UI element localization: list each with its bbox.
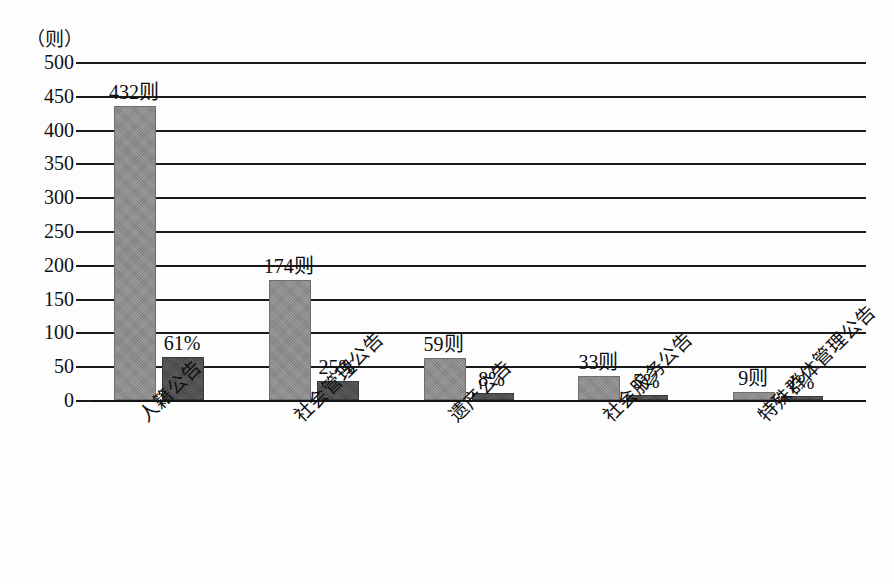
y-axis-tick-label: 100: [44, 322, 74, 342]
y-axis-tick-label: 150: [44, 289, 74, 309]
y-axis-tick-mark: [76, 400, 92, 402]
y-axis-tick-mark: [76, 163, 92, 165]
y-axis-tick-label: 500: [44, 52, 74, 72]
bar-percent-label: 61%: [164, 333, 201, 353]
bar-chart: （则） 500450400350300250200150100500 432则6…: [0, 0, 894, 584]
gridline: [92, 265, 866, 267]
bar-count-label: 174则: [264, 256, 314, 276]
y-axis-tick-label: 0: [64, 390, 74, 410]
y-axis-tick-mark: [76, 366, 92, 368]
y-axis-unit-caption: （则）: [26, 24, 83, 51]
y-axis-tick-mark: [76, 299, 92, 301]
y-axis-tick-label: 50: [54, 356, 74, 376]
bar-count-label: 33则: [578, 352, 618, 372]
gridline: [92, 299, 866, 301]
y-axis-tick-mark: [76, 96, 92, 98]
bar-count: [424, 358, 466, 400]
bar-count-label: 59则: [424, 334, 464, 354]
y-axis-tick-label: 450: [44, 86, 74, 106]
y-axis-tick-mark: [76, 231, 92, 233]
gridline: [92, 130, 866, 132]
bar-count: [269, 280, 311, 400]
gridline: [92, 332, 866, 334]
x-axis-category-labels: 人籍公告社会管理公告遗产公告社会服务公告特殊群体管理公告: [92, 404, 894, 584]
plot-area: 432则61%174则25%59则8%33则5%9则1%: [92, 62, 866, 400]
y-axis-tick-label: 200: [44, 255, 74, 275]
gridline: [92, 62, 866, 64]
y-axis-tick-labels: 500450400350300250200150100500: [18, 62, 74, 400]
y-axis-tick-mark: [76, 197, 92, 199]
y-axis-tick-label: 400: [44, 120, 74, 140]
gridline: [92, 197, 866, 199]
y-axis-tick-mark: [76, 332, 92, 334]
y-axis-tick-label: 350: [44, 153, 74, 173]
bar-count-label: 9则: [738, 368, 768, 388]
y-axis-tick-mark: [76, 130, 92, 132]
y-axis-tick-label: 300: [44, 187, 74, 207]
bar-count: [114, 106, 156, 400]
gridline: [92, 231, 866, 233]
gridline: [92, 163, 866, 165]
y-axis-tick-mark: [76, 265, 92, 267]
bar-count-label: 432则: [109, 82, 159, 102]
y-axis-tick-mark: [76, 62, 92, 64]
y-axis-tick-label: 250: [44, 221, 74, 241]
gridline: [92, 96, 866, 98]
